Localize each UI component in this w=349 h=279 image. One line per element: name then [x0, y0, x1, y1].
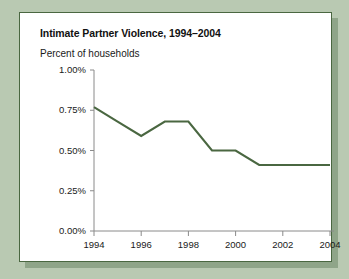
y-axis-tick-label: 0.75%	[40, 104, 86, 115]
chart-card: Intimate Partner Violence, 1994–2004 Per…	[19, 12, 332, 262]
x-axis-tick-label: 2002	[263, 239, 303, 250]
x-axis-tick-label: 1994	[74, 239, 114, 250]
y-axis-tick-label: 0.50%	[40, 145, 86, 156]
x-axis-tick-label: 1996	[121, 239, 161, 250]
plot-area: 0.00%0.25%0.50%0.75%1.00% 19941996199820…	[20, 13, 333, 263]
data-series-line	[94, 107, 330, 165]
x-axis-tick-label: 1998	[168, 239, 208, 250]
x-axis-tick-label: 2000	[216, 239, 256, 250]
y-axis-tick-label: 0.00%	[40, 225, 86, 236]
chart-page: Intimate Partner Violence, 1994–2004 Per…	[0, 0, 349, 279]
x-axis-tick-label: 2004	[310, 239, 349, 250]
y-axis-tick-label: 0.25%	[40, 185, 86, 196]
axis-ticks	[90, 70, 330, 236]
y-axis-tick-label: 1.00%	[40, 64, 86, 75]
